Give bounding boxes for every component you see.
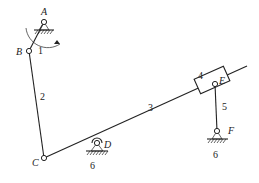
label-joint-c: C <box>32 157 39 168</box>
joint-c <box>41 155 46 160</box>
label-joint-d: D <box>103 139 112 150</box>
label-ground-f: 6 <box>213 149 218 160</box>
joint-b <box>26 48 31 53</box>
joint-f <box>214 128 219 133</box>
label-link-1: 1 <box>38 45 43 56</box>
label-joint-a: A <box>40 6 48 17</box>
label-joint-b: B <box>16 46 22 57</box>
joint-a <box>41 19 46 24</box>
label-joint-f: F <box>227 125 235 136</box>
joint-e <box>212 81 217 86</box>
label-link-3: 3 <box>148 102 153 113</box>
label-link-2: 2 <box>40 91 45 102</box>
label-link-5: 5 <box>222 101 227 112</box>
label-ground-d: 6 <box>90 160 95 171</box>
label-joint-e: E <box>218 75 225 86</box>
label-link-4: 4 <box>198 70 203 81</box>
link-2 <box>29 51 44 158</box>
joint-d <box>94 140 99 145</box>
link-5 <box>215 84 217 131</box>
linkage-diagram: A B C D E F 1 2 3 4 5 6 6 <box>0 0 259 183</box>
